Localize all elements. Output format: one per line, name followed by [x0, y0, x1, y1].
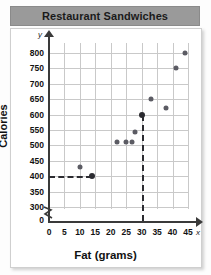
- y-tick-label: 700: [0, 79, 44, 89]
- y-tick-label: 350: [0, 187, 44, 197]
- gridline-horizontal: [49, 192, 189, 193]
- y-tick-label: 400: [0, 171, 44, 181]
- x-axis-title: Fat (grams): [0, 249, 211, 261]
- gridline-horizontal: [49, 84, 189, 85]
- x-tick-label: 45: [183, 227, 192, 237]
- y-axis-arrow-icon: [44, 30, 54, 37]
- gridline-horizontal: [49, 68, 189, 69]
- data-point: [173, 66, 178, 71]
- annotation-dashed-horizontal: [49, 176, 92, 178]
- x-tick-label: 40: [168, 227, 177, 237]
- x-tick-label: 15: [91, 227, 100, 237]
- x-tick-label: 5: [62, 227, 67, 237]
- x-axis-line: [48, 221, 198, 223]
- data-point: [77, 164, 82, 169]
- y-tick-label: 800: [0, 48, 44, 58]
- x-axis-letter: x: [196, 228, 200, 237]
- data-point: [124, 140, 129, 145]
- y-tick-label: 0: [0, 215, 44, 225]
- annotation-dashed-vertical: [142, 115, 144, 221]
- y-axis-line: [48, 36, 50, 222]
- chart-screenshot: Restaurant Sandwiches Calories Fat (gram…: [0, 0, 211, 275]
- y-axis-letter: y: [38, 30, 42, 39]
- data-point: [130, 140, 135, 145]
- x-tick-label: 30: [137, 227, 146, 237]
- y-tick-label: 300: [0, 202, 44, 212]
- x-tick-label: 20: [106, 227, 115, 237]
- gridline-horizontal: [49, 115, 189, 116]
- x-tick-label: 25: [121, 227, 130, 237]
- y-tick-label: 500: [0, 140, 44, 150]
- x-tick-label: 35: [152, 227, 161, 237]
- y-tick-label: 650: [0, 94, 44, 104]
- axis-break-icon: [42, 206, 56, 220]
- data-point: [182, 51, 187, 56]
- x-axis-arrow-icon: [196, 217, 203, 227]
- gridline-horizontal: [49, 207, 189, 208]
- data-point: [114, 140, 119, 145]
- plot-area: [49, 43, 189, 209]
- gridline-horizontal: [49, 130, 189, 131]
- chart-title-banner: Restaurant Sandwiches: [10, 6, 200, 26]
- gridline-horizontal: [49, 161, 189, 162]
- y-tick-label: 600: [0, 110, 44, 120]
- x-tick-label: 0: [47, 227, 52, 237]
- data-point: [148, 97, 153, 102]
- data-point: [133, 129, 138, 134]
- data-point: [164, 106, 169, 111]
- x-tick-label: 10: [75, 227, 84, 237]
- gridline-horizontal: [49, 145, 189, 146]
- gridline-horizontal: [49, 53, 189, 54]
- y-tick-label: 450: [0, 156, 44, 166]
- y-tick-label: 750: [0, 63, 44, 73]
- y-tick-label: 550: [0, 125, 44, 135]
- gridline-horizontal: [49, 99, 189, 100]
- page-title: Restaurant Sandwiches: [42, 10, 168, 22]
